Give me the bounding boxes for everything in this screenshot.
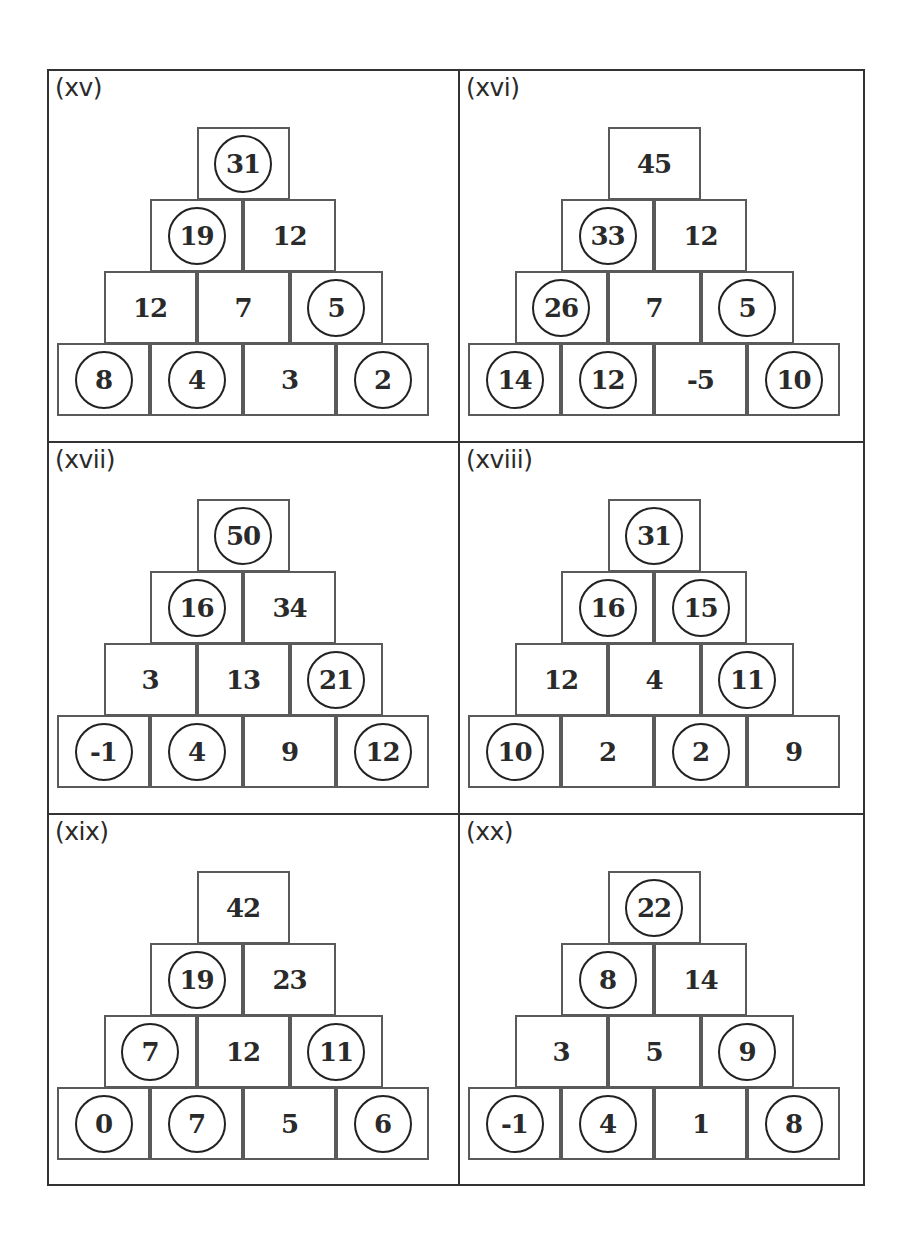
- pyramid-cell: 5: [290, 271, 383, 344]
- pyramid-cell: 50: [197, 499, 290, 572]
- pyramid-cell: 12: [561, 343, 654, 416]
- pyramid-cell: 19: [150, 199, 243, 272]
- circled-number: 8: [75, 351, 133, 409]
- circled-number: 7: [168, 1095, 226, 1153]
- circled-number: 16: [168, 579, 226, 637]
- pyramid-cell: 31: [197, 127, 290, 200]
- circled-number: -1: [486, 1095, 544, 1153]
- circled-number: 19: [168, 207, 226, 265]
- circled-number: 11: [307, 1023, 365, 1081]
- circled-number: 4: [168, 723, 226, 781]
- circled-number: 16: [579, 579, 637, 637]
- circled-number: 15: [672, 579, 730, 637]
- pyramid-cell: 12: [654, 199, 747, 272]
- circled-number: 31: [625, 507, 683, 565]
- circled-number: 7: [121, 1023, 179, 1081]
- circled-number: 4: [168, 351, 226, 409]
- pyramid-cell: 33: [561, 199, 654, 272]
- pyramid-cell: 8: [57, 343, 150, 416]
- circled-number: 14: [486, 351, 544, 409]
- pyramid-cell: 21: [290, 643, 383, 716]
- pyramid-panel: (xx)22814359-1418: [460, 815, 869, 1185]
- pyramid-cell: 9: [243, 715, 336, 788]
- pyramid-cell: 4: [150, 343, 243, 416]
- pyramid-panel: (xix)421923712110756: [49, 815, 458, 1185]
- circled-number: 33: [579, 207, 637, 265]
- pyramid-cell: 45: [608, 127, 701, 200]
- cell-number: 3: [261, 351, 319, 409]
- pyramid-cell: 8: [561, 943, 654, 1016]
- pyramid-cell: 16: [150, 571, 243, 644]
- pyramid-cell: 11: [290, 1015, 383, 1088]
- pyramid-cell: 1: [654, 1087, 747, 1160]
- cell-number: 9: [765, 723, 823, 781]
- pyramid-cell: 7: [197, 271, 290, 344]
- pyramid-cell: 12: [336, 715, 429, 788]
- circled-number: 2: [672, 723, 730, 781]
- pyramid-cell: 7: [608, 271, 701, 344]
- pyramid-cell: 12: [104, 271, 197, 344]
- cell-number: 12: [261, 207, 319, 265]
- cell-number: 34: [261, 579, 319, 637]
- pyramid-cell: 11: [701, 643, 794, 716]
- cell-number: 7: [625, 279, 683, 337]
- cell-number: 12: [121, 279, 179, 337]
- cell-number: 23: [261, 951, 319, 1009]
- circled-number: 8: [765, 1095, 823, 1153]
- cell-number: 5: [625, 1023, 683, 1081]
- circled-number: 8: [579, 951, 637, 1009]
- cell-number: 9: [261, 723, 319, 781]
- circled-number: 31: [214, 135, 272, 193]
- circled-number: 10: [765, 351, 823, 409]
- cell-number: 1: [672, 1095, 730, 1153]
- pyramid-cell: 6: [336, 1087, 429, 1160]
- pyramid-cell: 5: [243, 1087, 336, 1160]
- pyramid-panel: (xv)31191212758432: [49, 71, 458, 441]
- cell-number: 45: [625, 135, 683, 193]
- pyramid-cell: 3: [243, 343, 336, 416]
- pyramid-cell: 2: [654, 715, 747, 788]
- pyramid-cell: 4: [608, 643, 701, 716]
- cell-number: 2: [579, 723, 637, 781]
- pyramid-cell: 26: [515, 271, 608, 344]
- pyramid-cell: 23: [243, 943, 336, 1016]
- pyramid-cell: -1: [468, 1087, 561, 1160]
- pyramid-panel: (xvi)45331226751412-510: [460, 71, 869, 441]
- circled-number: 0: [75, 1095, 133, 1153]
- panel-label: (xv): [55, 73, 102, 102]
- pyramid-cell: 9: [747, 715, 840, 788]
- cell-number: 3: [532, 1023, 590, 1081]
- pyramid-cell: 12: [243, 199, 336, 272]
- circled-number: -1: [75, 723, 133, 781]
- pyramid-cell: -5: [654, 343, 747, 416]
- circled-number: 19: [168, 951, 226, 1009]
- cell-number: 42: [214, 879, 272, 937]
- pyramid-cell: 34: [243, 571, 336, 644]
- panel-label: (xviii): [466, 445, 532, 474]
- circled-number: 11: [718, 651, 776, 709]
- circled-number: 6: [354, 1095, 412, 1153]
- circled-number: 10: [486, 723, 544, 781]
- pyramid-cell: 42: [197, 871, 290, 944]
- pyramid-cell: 4: [561, 1087, 654, 1160]
- cell-number: 12: [672, 207, 730, 265]
- pyramid-cell: 2: [561, 715, 654, 788]
- pyramid-cell: 7: [104, 1015, 197, 1088]
- cell-number: 5: [261, 1095, 319, 1153]
- pyramid-cell: 22: [608, 871, 701, 944]
- pyramid-cell: 5: [701, 271, 794, 344]
- cell-number: 12: [532, 651, 590, 709]
- circled-number: 21: [307, 651, 365, 709]
- circled-number: 5: [307, 279, 365, 337]
- pyramid-cell: 14: [468, 343, 561, 416]
- pyramid-cell: 8: [747, 1087, 840, 1160]
- circled-number: 5: [718, 279, 776, 337]
- panel-label: (xix): [55, 817, 109, 846]
- cell-number: 7: [214, 279, 272, 337]
- cell-number: 3: [121, 651, 179, 709]
- circled-number: 50: [214, 507, 272, 565]
- pyramid-cell: 10: [468, 715, 561, 788]
- circled-number: 4: [579, 1095, 637, 1153]
- circled-number: 9: [718, 1023, 776, 1081]
- pyramid-cell: 15: [654, 571, 747, 644]
